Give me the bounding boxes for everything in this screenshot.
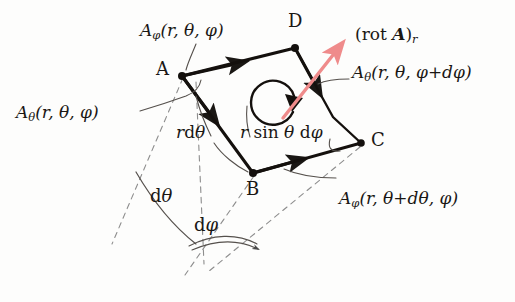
label-r-dtheta-r: r <box>176 122 184 142</box>
vertex-label-C: C <box>371 131 385 149</box>
edge-B-to-C <box>253 143 361 173</box>
rot-a-spherical-element-diagram: Aφ(r, θ, φ) Aθ(r, θ, φ) Aθ(r, θ, φ+dφ) A… <box>0 0 515 302</box>
vertex-dot-B <box>249 169 257 177</box>
leader-lines <box>140 44 349 178</box>
circulation-arc <box>251 81 294 125</box>
vertex-label-A: A <box>156 60 169 78</box>
edge-A-to-D <box>182 48 295 76</box>
label-r-dtheta: rdθ <box>176 124 205 141</box>
label-a-phi-top: Aφ(r, θ, φ) <box>140 22 224 41</box>
label-d-phi-angle-d: d <box>194 214 206 235</box>
leader-a-phi-bottom <box>284 169 336 178</box>
label-d-phi-angle: dφ <box>194 216 218 234</box>
label-r-sin-r: r <box>240 122 248 142</box>
label-rot-a-r: (rot A)r <box>355 26 418 45</box>
label-d-theta-angle-d: d <box>150 185 162 206</box>
label-r-sin-function: sin <box>254 122 279 142</box>
label-a-theta-right-args: (r, θ, φ+dφ) <box>371 62 471 82</box>
dashed-line-from-A <box>112 78 183 244</box>
leader-a-theta-right <box>318 79 349 84</box>
label-a-phi-bottom-args: (r, θ+dθ, φ) <box>359 188 458 208</box>
vertex-dot-D <box>291 44 299 52</box>
label-a-phi-bottom-symbol: A <box>339 188 351 208</box>
label-d-theta-angle-symbol: θ <box>162 185 173 206</box>
dashed-radial-lines <box>112 78 360 275</box>
surface-element-quadrilateral <box>182 48 361 173</box>
label-r-sin-phi: φ <box>311 122 323 142</box>
label-a-theta-right-symbol: A <box>352 62 364 82</box>
d-phi-angle-arc <box>189 236 258 250</box>
label-rot-a-r-subscript: r <box>412 32 418 46</box>
label-d-theta-angle: dθ <box>150 187 172 205</box>
label-a-phi-top-symbol: A <box>140 20 152 40</box>
label-a-theta-left-args: (r, θ, φ) <box>35 102 98 122</box>
label-r-sin-d: d <box>300 122 311 142</box>
label-rot-a-r-vector: A <box>392 24 405 44</box>
label-r-sin-theta: θ <box>284 122 294 142</box>
vertex-dot-A <box>178 72 186 80</box>
d-theta-angle-arc <box>136 172 196 244</box>
label-a-phi-bottom: Aφ(r, θ+dθ, φ) <box>339 190 458 209</box>
vertex-label-D: D <box>288 12 302 30</box>
label-r-dtheta-d: d <box>184 122 195 142</box>
label-rot-a-r-open: (rot <box>355 24 392 44</box>
label-a-theta-right: Aθ(r, θ, φ+dφ) <box>352 64 472 83</box>
diagram-canvas <box>0 0 515 302</box>
vertex-label-B: B <box>246 180 259 198</box>
vertex-dot-C <box>357 139 365 147</box>
label-d-phi-angle-symbol: φ <box>206 214 219 235</box>
leader-a-theta-left <box>140 80 201 111</box>
label-r-sin-theta-dphi: r sin θ dφ <box>240 124 323 141</box>
label-a-theta-left-symbol: A <box>16 102 28 122</box>
label-a-phi-top-args: (r, θ, φ) <box>160 20 223 40</box>
label-a-theta-left: Aθ(r, θ, φ) <box>16 104 99 123</box>
label-r-dtheta-theta: θ <box>195 122 205 142</box>
d-phi-arc-outer <box>192 242 258 250</box>
leader-a-phi-top <box>186 44 196 70</box>
d-theta-arc <box>136 172 196 244</box>
